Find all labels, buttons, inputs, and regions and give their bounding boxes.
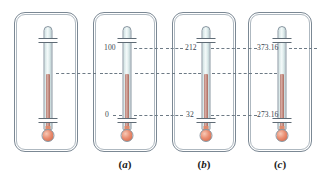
dash-mid-a-left (100, 73, 122, 74)
thermometer-scale-figure: 100 212 373.16 0 32 273.16 (a) (b) (c) (0, 0, 323, 180)
graduation-collar-lower (118, 118, 137, 123)
graduation-collar-lower (39, 118, 58, 123)
thermometer-bulb (121, 129, 134, 142)
dash-upper-b-left (166, 48, 183, 49)
thermometer-bulb (276, 129, 289, 142)
dash-lower-a-to-b (134, 115, 163, 116)
graduation-collar-lower (197, 118, 216, 123)
dash-lower-c-left (243, 115, 257, 116)
panel-kelvin (248, 12, 312, 152)
dash-lower-a-left (113, 115, 122, 116)
graduation-collar-upper (118, 38, 137, 43)
panel-fahrenheit (172, 12, 236, 152)
dash-mid-b-left (179, 73, 201, 74)
value-lower-kelvin: 273.16 (257, 111, 278, 119)
dash-lower-b-to-c (211, 115, 240, 116)
dash-upper-b-to-c (211, 48, 240, 49)
thermometer-bulb (42, 129, 55, 142)
thermometer-bulb (200, 129, 213, 142)
caption-panel-a: (a) (93, 158, 157, 170)
dash-upper-c-left (243, 48, 257, 49)
value-upper-kelvin: 373.16 (257, 44, 278, 52)
dash-upper-a-to-b (134, 48, 163, 49)
dash-mid-a-to-b (135, 73, 175, 74)
graduation-collar-upper (39, 38, 58, 43)
value-lower-fahrenheit: 32 (186, 111, 194, 119)
value-lower-celsius: 0 (105, 111, 109, 119)
dash-mid-b-to-c (212, 73, 252, 74)
graduation-collar-upper (197, 38, 216, 43)
panel-unlabeled (14, 12, 78, 152)
caption-panel-c: (c) (248, 158, 312, 170)
panel-celsius (93, 12, 157, 152)
value-upper-fahrenheit: 212 (185, 44, 197, 52)
thermometer (195, 26, 217, 142)
dash-mid-c-left (255, 73, 277, 74)
dash-upper-c-right (289, 48, 317, 49)
caption-close-paren: ) (207, 158, 211, 170)
dash-mid-0-to-a (56, 73, 96, 74)
dash-lower-b-left (166, 115, 183, 116)
value-upper-celsius: 100 (104, 44, 116, 52)
thermometer (116, 26, 138, 142)
caption-close-paren: ) (128, 158, 132, 170)
caption-close-paren: ) (282, 158, 286, 170)
caption-panel-b: (b) (172, 158, 236, 170)
thermometer (37, 26, 59, 142)
